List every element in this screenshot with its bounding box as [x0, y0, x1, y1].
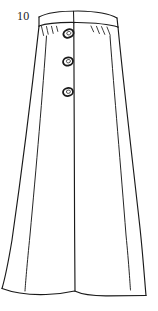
center-front-seam: [74, 23, 75, 291]
right-panel-seam: [110, 36, 131, 290]
button-3: [62, 87, 73, 97]
illustration-canvas: 10: [0, 0, 158, 311]
waistband-top-edge: [39, 11, 117, 18]
skirt-sketch: [0, 0, 158, 311]
hemline: [2, 289, 146, 296]
figure-number-label: 10: [17, 10, 30, 23]
waistband-right-end: [117, 18, 118, 27]
button-1: [62, 28, 75, 39]
gather-lines-right: [91, 26, 110, 35]
left-panel-seam: [25, 36, 47, 291]
left-side-seam: [2, 26, 39, 288]
waistband-bottom-edge: [39, 22, 118, 27]
gather-lines-left: [42, 26, 58, 35]
right-side-seam: [118, 27, 146, 296]
button-2: [62, 56, 74, 66]
